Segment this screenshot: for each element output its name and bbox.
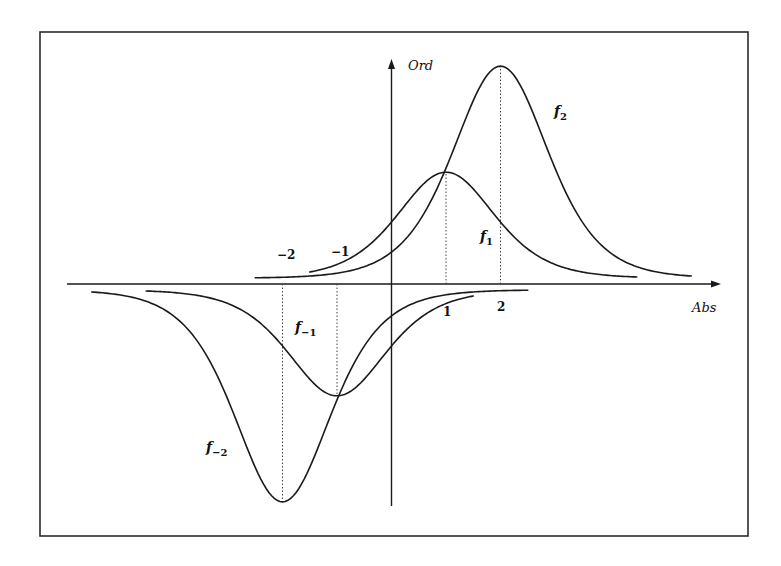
x-axis-arrow-icon — [711, 281, 721, 288]
curve-f-minus-1 — [146, 291, 473, 396]
tick-label-1: 1 — [443, 305, 451, 319]
y-axis-label: Ord — [408, 58, 433, 73]
label-f-minus-2: f−2 — [205, 439, 227, 458]
tick-label-minus-2: −2 — [277, 248, 295, 262]
label-f2: f2 — [553, 103, 567, 122]
curve-f-minus-2 — [92, 290, 528, 502]
figure-canvas: Ord Abs −2 −1 1 2 f2 f1 f−1 f−2 — [0, 0, 781, 566]
x-axis-label: Abs — [691, 300, 717, 315]
label-f-minus-1: f−1 — [294, 319, 316, 338]
label-f1: f1 — [479, 228, 493, 247]
curve-f1 — [310, 172, 637, 277]
y-axis-arrow-icon — [388, 59, 395, 69]
tick-label-2: 2 — [497, 300, 505, 314]
tick-label-minus-1: −1 — [331, 245, 349, 259]
curve-f2 — [255, 66, 691, 278]
